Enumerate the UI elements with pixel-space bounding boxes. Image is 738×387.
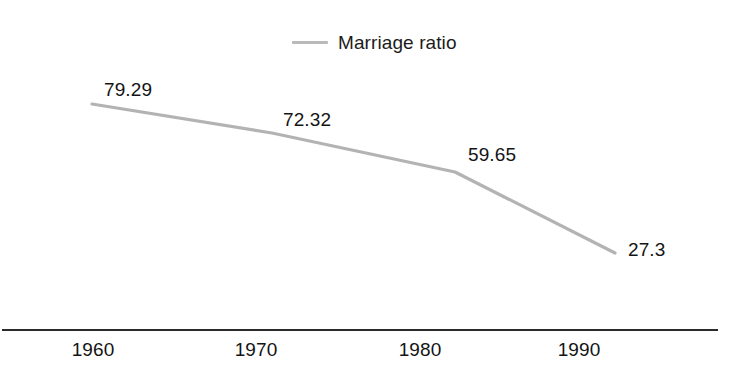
x-tick-1980: 1980 bbox=[399, 340, 442, 359]
line-chart: Marriage ratio 79.29 72.32 59.65 27.3 19… bbox=[0, 0, 738, 387]
x-tick-1990: 1990 bbox=[558, 340, 601, 359]
data-label-1970: 72.32 bbox=[283, 110, 331, 129]
data-label-1990: 27.3 bbox=[628, 240, 665, 259]
x-axis-line bbox=[2, 329, 718, 331]
series-line-marriage-ratio bbox=[92, 104, 615, 253]
x-tick-1970: 1970 bbox=[235, 340, 278, 359]
x-axis-tick-labels: 1960 1970 1980 1990 bbox=[0, 340, 738, 368]
data-label-1960: 79.29 bbox=[104, 80, 152, 99]
data-label-1980: 59.65 bbox=[468, 145, 516, 164]
x-tick-1960: 1960 bbox=[72, 340, 115, 359]
